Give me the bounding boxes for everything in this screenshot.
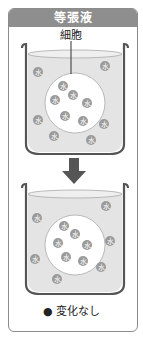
- water-molecule-icon: 水: [99, 119, 109, 129]
- water-molecule-icon: 水: [32, 213, 42, 223]
- svg-text:水: 水: [80, 117, 87, 126]
- water-molecule-icon: 水: [58, 81, 68, 91]
- svg-text:水: 水: [32, 255, 39, 264]
- svg-text:水: 水: [52, 96, 59, 105]
- water-molecule-icon: 水: [86, 135, 96, 145]
- water-molecule-icon: 水: [68, 90, 78, 100]
- svg-text:水: 水: [35, 68, 42, 77]
- water-molecule-icon: 水: [96, 262, 106, 272]
- svg-text:水: 水: [51, 132, 58, 141]
- svg-text:水: 水: [61, 222, 68, 231]
- water-molecule-icon: 水: [33, 115, 43, 125]
- water-molecule-icon: 水: [82, 98, 92, 108]
- water-molecule-icon: 水: [78, 116, 88, 126]
- svg-text:水: 水: [84, 241, 91, 250]
- water-molecule-icon: 水: [53, 238, 63, 248]
- water-molecule-icon: 水: [101, 201, 111, 211]
- water-molecule-icon: 水: [78, 256, 88, 266]
- svg-text:水: 水: [55, 239, 62, 248]
- water-molecule-icon: 水: [50, 95, 60, 105]
- water-molecule-icon: 水: [30, 254, 40, 264]
- beaker-after: 水水水水水水水水水水水水: [22, 184, 128, 294]
- svg-text:水: 水: [35, 116, 42, 125]
- water-molecule-icon: 水: [52, 274, 62, 284]
- water-molecule-icon: 水: [59, 221, 69, 231]
- svg-text:水: 水: [63, 253, 70, 262]
- svg-text:水: 水: [34, 214, 41, 223]
- svg-text:水: 水: [80, 257, 87, 266]
- svg-text:水: 水: [102, 62, 109, 71]
- svg-text:水: 水: [72, 230, 79, 239]
- svg-text:水: 水: [103, 202, 110, 211]
- svg-text:水: 水: [70, 91, 77, 100]
- cell-label: 細胞: [54, 26, 88, 42]
- svg-text:水: 水: [101, 120, 108, 129]
- result-caption: ● 変化なし: [0, 302, 143, 318]
- water-molecule-icon: 水: [33, 67, 43, 77]
- water-molecule-icon: 水: [60, 111, 70, 121]
- svg-text:水: 水: [84, 99, 91, 108]
- water-molecule-icon: 水: [70, 229, 80, 239]
- svg-text:水: 水: [107, 237, 114, 246]
- osmosis-diagram: 水水水水水水水水水水水水 水水水水水水水水水水水水: [0, 0, 143, 341]
- water-molecule-icon: 水: [61, 252, 71, 262]
- svg-text:水: 水: [98, 263, 105, 272]
- svg-text:水: 水: [62, 112, 69, 121]
- water-molecule-icon: 水: [49, 131, 59, 141]
- svg-text:水: 水: [88, 136, 95, 145]
- svg-text:水: 水: [60, 82, 67, 91]
- water-molecule-icon: 水: [105, 236, 115, 246]
- water-molecule-icon: 水: [82, 240, 92, 250]
- water-molecule-icon: 水: [100, 61, 110, 71]
- beaker-before: 水水水水水水水水水水水水: [22, 41, 128, 154]
- down-arrow-icon: [62, 158, 86, 184]
- svg-text:水: 水: [54, 275, 61, 284]
